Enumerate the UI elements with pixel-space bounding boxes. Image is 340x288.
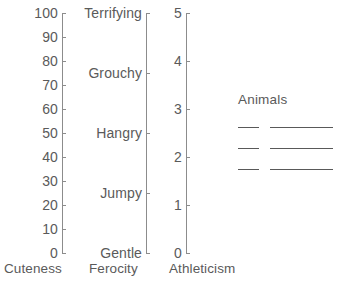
axis-title-cuteness: Cuteness (4, 262, 62, 276)
tick-mark-cuteness (62, 181, 66, 182)
tick-label-cuteness: 50 (10, 126, 58, 140)
tick-mark-cuteness (62, 13, 66, 14)
tick-mark-athleticism (186, 109, 190, 110)
axis-title-athleticism: Athleticism (169, 262, 235, 276)
legend-swatch-icon (238, 148, 259, 149)
tick-label-athleticism: 4 (160, 54, 182, 68)
tick-label-ferocity: Jumpy (72, 186, 142, 200)
tick-mark-ferocity (146, 73, 150, 74)
tick-label-cuteness: 0 (10, 246, 58, 260)
tick-label-athleticism: 3 (160, 102, 182, 116)
tick-mark-ferocity (146, 13, 150, 14)
tick-label-athleticism: 0 (160, 246, 182, 260)
tick-mark-athleticism (186, 205, 190, 206)
tick-label-ferocity: Grouchy (72, 66, 142, 80)
tick-label-cuteness: 10 (10, 222, 58, 236)
tick-label-ferocity: Hangry (72, 126, 142, 140)
legend-line-icon (270, 148, 333, 149)
legend-item[interactable] (238, 144, 338, 165)
tick-mark-athleticism (186, 13, 190, 14)
tick-mark-cuteness (62, 109, 66, 110)
legend: Animals (238, 92, 338, 186)
tick-mark-ferocity (146, 253, 150, 254)
parallel-axes-chart: 100 90 80 70 60 50 40 30 20 10 0 Cutenes… (0, 0, 340, 288)
tick-mark-cuteness (62, 85, 66, 86)
tick-label-cuteness: 90 (10, 30, 58, 44)
tick-mark-athleticism (186, 253, 190, 254)
legend-title: Animals (238, 92, 338, 107)
tick-label-cuteness: 60 (10, 102, 58, 116)
tick-label-cuteness: 40 (10, 150, 58, 164)
tick-label-cuteness: 70 (10, 78, 58, 92)
legend-swatch-icon (238, 127, 259, 128)
tick-mark-athleticism (186, 157, 190, 158)
axis-title-ferocity: Ferocity (89, 262, 138, 276)
tick-mark-cuteness (62, 37, 66, 38)
legend-line-icon (270, 127, 333, 128)
legend-swatch-icon (238, 169, 259, 170)
tick-mark-ferocity (146, 133, 150, 134)
tick-label-cuteness: 80 (10, 54, 58, 68)
tick-mark-cuteness (62, 61, 66, 62)
tick-label-cuteness: 100 (10, 6, 58, 20)
tick-mark-cuteness (62, 253, 66, 254)
legend-line-icon (270, 169, 333, 170)
tick-label-ferocity: Terrifying (72, 6, 142, 20)
tick-label-cuteness: 30 (10, 174, 58, 188)
tick-label-athleticism: 5 (160, 6, 182, 20)
tick-mark-ferocity (146, 193, 150, 194)
tick-mark-cuteness (62, 157, 66, 158)
tick-label-athleticism: 1 (160, 198, 182, 212)
tick-label-ferocity: Gentle (72, 246, 142, 260)
legend-item[interactable] (238, 123, 338, 144)
legend-item[interactable] (238, 165, 338, 186)
tick-mark-cuteness (62, 205, 66, 206)
tick-label-athleticism: 2 (160, 150, 182, 164)
axis-line-athleticism (186, 13, 187, 253)
tick-mark-cuteness (62, 229, 66, 230)
tick-mark-athleticism (186, 61, 190, 62)
tick-label-cuteness: 20 (10, 198, 58, 212)
tick-mark-cuteness (62, 133, 66, 134)
